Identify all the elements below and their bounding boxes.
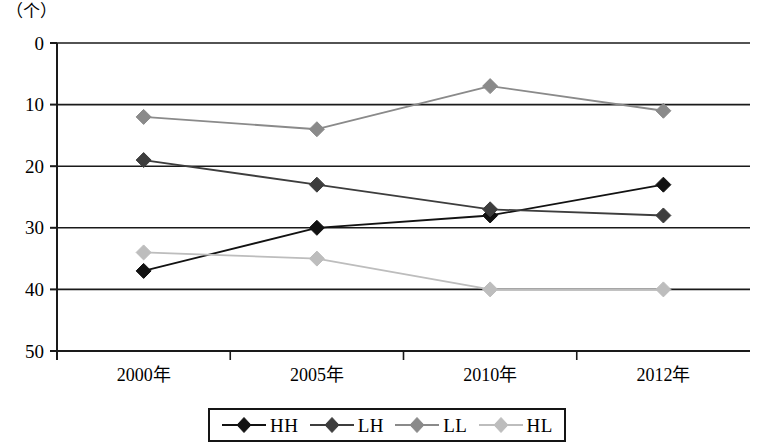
y-tick-label: 30	[25, 217, 44, 238]
data-point-HL-2012年	[656, 282, 671, 297]
data-point-HH-2000年	[136, 263, 151, 278]
data-point-HH-2012年	[656, 177, 671, 192]
series-line-group	[144, 86, 664, 289]
y-tick-label: 0	[35, 33, 45, 54]
diamond-marker	[478, 416, 524, 434]
y-tick-group: 50403020100	[25, 33, 57, 362]
legend-item-LH: LH	[309, 416, 384, 435]
line-chart: （个） 50403020100 2000年2005年2010年2012年 HHL…	[0, 0, 761, 444]
diamond-marker	[394, 416, 440, 434]
x-tick-label: 2005年	[290, 365, 344, 385]
legend-label: LH	[358, 416, 384, 435]
y-tick-label: 20	[25, 156, 44, 177]
data-point-LH-2000年	[136, 153, 151, 168]
data-point-HL-2010年	[483, 282, 498, 297]
data-point-HL-2005年	[309, 251, 324, 266]
diamond-marker	[221, 416, 267, 434]
series-line-LH	[144, 160, 664, 215]
data-point-LH-2005年	[309, 177, 324, 192]
data-point-HH-2005年	[309, 220, 324, 235]
data-point-LL-2010年	[483, 79, 498, 94]
diamond-marker	[309, 416, 355, 434]
legend-item-HL: HL	[478, 416, 553, 435]
series-line-HL	[144, 252, 664, 289]
chart-legend: HHLHLLHL	[208, 408, 566, 442]
plot-area: 50403020100 2000年2005年2010年2012年	[0, 0, 761, 404]
x-tick-label: 2010年	[463, 365, 517, 385]
data-point-LL-2012年	[656, 103, 671, 118]
y-tick-label: 40	[25, 279, 44, 300]
legend-label: HH	[270, 416, 298, 435]
x-tick-group: 2000年2005年2010年2012年	[57, 351, 690, 385]
x-tick-label: 2000年	[117, 365, 171, 385]
data-point-LH-2012年	[656, 208, 671, 223]
y-tick-label: 10	[25, 94, 44, 115]
y-tick-label: 50	[25, 341, 44, 362]
legend-label: HL	[527, 416, 553, 435]
legend-item-LL: LL	[394, 416, 467, 435]
legend-label: LL	[443, 416, 467, 435]
data-point-HL-2000年	[136, 245, 151, 260]
series-marker-group	[136, 79, 671, 297]
data-point-LL-2005年	[309, 122, 324, 137]
legend-item-HH: HH	[221, 416, 298, 435]
x-tick-label: 2012年	[636, 365, 690, 385]
data-point-LL-2000年	[136, 109, 151, 124]
series-line-LL	[144, 86, 664, 129]
